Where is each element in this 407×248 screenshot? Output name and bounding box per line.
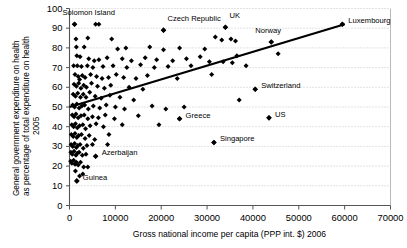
data-point <box>91 104 96 109</box>
data-point <box>154 57 159 62</box>
y-tick-label: 100 <box>37 3 63 14</box>
y-tick-label: 80 <box>37 42 63 53</box>
data-point <box>175 76 180 81</box>
data-point <box>106 132 111 137</box>
data-point <box>104 103 109 108</box>
data-point <box>152 65 157 70</box>
y-tick-label: 20 <box>37 160 63 171</box>
data-point <box>90 65 95 70</box>
data-point <box>86 106 91 111</box>
y-tick-label: 0 <box>37 200 63 211</box>
data-point <box>90 114 95 119</box>
data-point <box>80 153 85 158</box>
data-point <box>87 133 92 138</box>
data-point <box>109 37 114 42</box>
data-point <box>106 75 111 80</box>
data-point <box>121 75 126 80</box>
data-point <box>202 46 207 51</box>
data-point <box>103 112 108 117</box>
data-point <box>170 58 175 63</box>
data-point <box>145 73 150 78</box>
data-point <box>97 105 102 110</box>
y-tick-label: 90 <box>37 22 63 33</box>
data-point <box>177 45 182 50</box>
data-point <box>276 51 281 56</box>
data-point <box>237 98 242 103</box>
annotated-point <box>74 178 80 184</box>
data-point <box>83 126 88 131</box>
y-tick-label: 50 <box>37 101 63 112</box>
data-point <box>136 113 141 118</box>
data-point <box>209 72 214 77</box>
point-label: Norway <box>255 26 281 35</box>
data-point <box>85 36 90 41</box>
y-tick-label: 60 <box>37 81 63 92</box>
data-point <box>73 37 78 42</box>
data-point <box>228 37 233 42</box>
annotated-point <box>93 153 99 159</box>
data-point <box>100 76 105 81</box>
data-point <box>84 152 89 157</box>
data-point <box>133 76 138 81</box>
data-point <box>73 169 78 174</box>
y-tick-label: 30 <box>37 140 63 151</box>
data-point <box>219 38 224 43</box>
data-point <box>150 104 155 109</box>
data-point <box>92 58 97 63</box>
data-point <box>83 136 88 141</box>
data-point <box>166 64 171 69</box>
annotated-point <box>72 21 78 27</box>
data-point <box>138 62 143 67</box>
data-point <box>100 64 105 69</box>
data-point <box>88 123 93 128</box>
point-label: Singapore <box>220 134 255 143</box>
y-tick-label: 40 <box>37 121 63 132</box>
data-point <box>87 90 92 95</box>
data-point <box>96 57 101 62</box>
data-point <box>117 95 122 100</box>
point-label: Luxembourg <box>348 16 390 25</box>
data-point <box>102 86 107 91</box>
annotated-point <box>266 115 272 121</box>
data-point <box>85 63 90 68</box>
data-point <box>120 56 125 61</box>
data-point <box>129 58 134 63</box>
data-point <box>233 39 238 44</box>
annotated-point <box>211 140 217 146</box>
data-point <box>88 72 93 77</box>
annotated-point <box>268 39 274 45</box>
y-tick-label: 70 <box>37 62 63 73</box>
point-label: US <box>275 110 286 119</box>
y-axis-label-line1: General government expenditure on health <box>12 40 22 196</box>
data-point <box>85 165 90 170</box>
data-point <box>198 54 203 59</box>
data-point <box>101 124 106 129</box>
y-tick-label: 10 <box>37 180 63 191</box>
data-point <box>113 105 118 110</box>
annotated-points <box>72 21 345 183</box>
data-point <box>86 56 91 61</box>
data-point <box>82 44 87 49</box>
annotated-point <box>223 24 229 30</box>
annotated-point <box>177 116 183 122</box>
data-point <box>85 116 90 121</box>
point-label: Switzerland <box>261 81 300 90</box>
data-point <box>95 84 100 89</box>
data-point <box>143 55 148 60</box>
data-point <box>131 98 136 103</box>
data-point <box>182 105 187 110</box>
point-label: UK <box>229 11 240 20</box>
data-point <box>84 143 89 148</box>
data-point <box>147 44 152 49</box>
data-point <box>94 121 99 126</box>
y-axis-label-line2: as percentage of total expenditure on he… <box>22 36 32 196</box>
x-axis-label: Gross national income per capita (PPP in… <box>69 229 390 239</box>
scatter-chart-figure: General government expenditure on health… <box>0 0 407 248</box>
data-point <box>122 106 127 111</box>
point-label: Guinea <box>83 173 108 182</box>
data-point <box>213 35 218 40</box>
data-point <box>114 72 119 77</box>
axis-lines <box>66 9 391 210</box>
annotated-point <box>161 27 167 33</box>
data-point <box>92 137 97 142</box>
